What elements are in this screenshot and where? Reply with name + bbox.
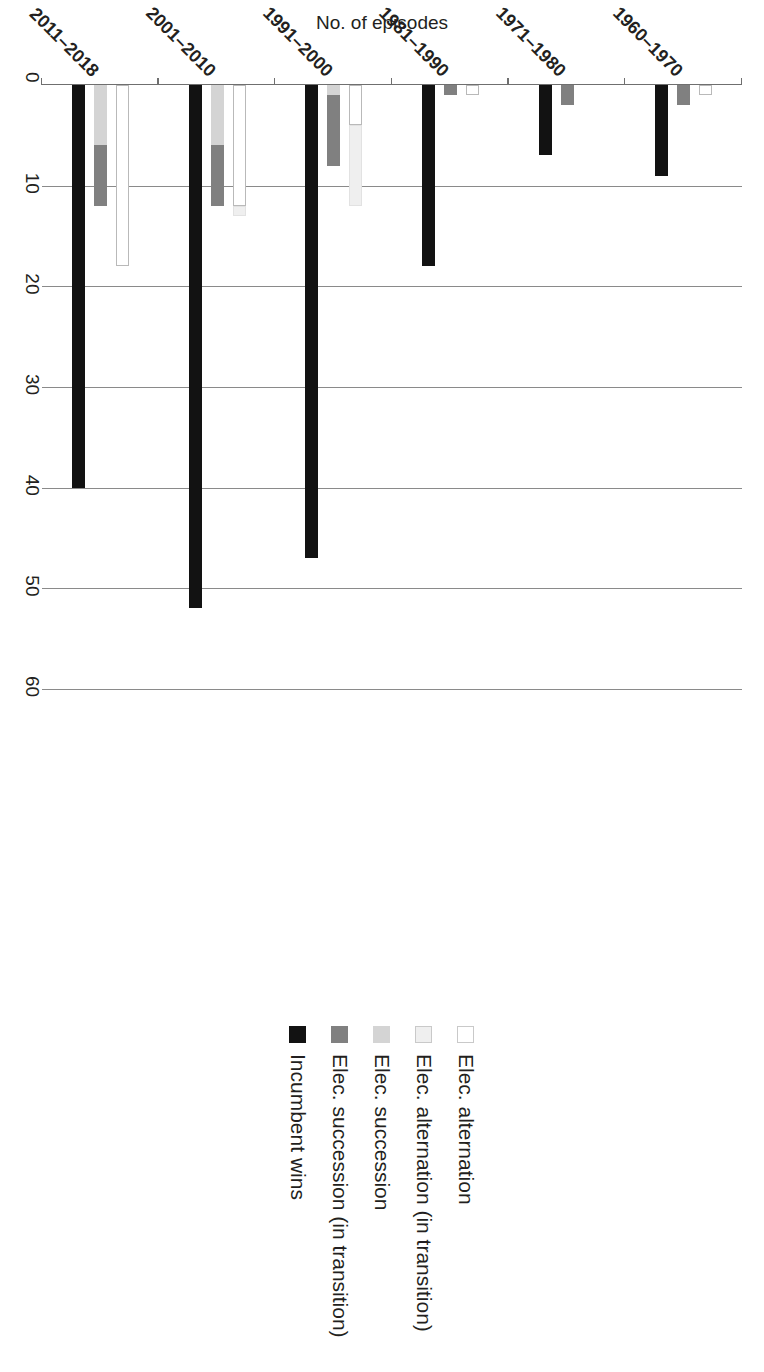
bar-segment[interactable] [305, 85, 318, 558]
bar-segment[interactable] [466, 85, 479, 95]
white-square-swatch [458, 1026, 475, 1043]
light-gray-square-swatch [374, 1026, 391, 1043]
chart-legend: Elec. alternationElec. alternation (in t… [0, 1010, 764, 1372]
bar-group [159, 85, 276, 688]
y-axis-tick: 30 [21, 374, 43, 395]
bar-segment[interactable] [349, 85, 362, 125]
bar-segment[interactable] [116, 85, 129, 266]
legend-item-label: Elec. succession [370, 1054, 394, 1210]
bar-segment[interactable] [561, 85, 574, 105]
y-axis-tick: 60 [21, 676, 43, 697]
bar[interactable] [466, 85, 479, 95]
legend-item[interactable]: Incumbent wins [286, 1026, 310, 1372]
bar[interactable] [72, 85, 85, 488]
bar-segment[interactable] [699, 85, 712, 95]
legend-item[interactable]: Elec. alternation (in transition) [412, 1026, 436, 1372]
legend-item-label: Elec. alternation [454, 1054, 478, 1205]
category-tick [741, 78, 742, 85]
bar-segment[interactable] [72, 85, 85, 488]
bar[interactable] [699, 85, 712, 95]
y-axis-tick: 50 [21, 575, 43, 596]
bar-segment[interactable] [211, 145, 224, 205]
bar[interactable] [655, 85, 668, 176]
bar-chart-figure: No. of episodes 0102030405060 1960–19701… [0, 0, 764, 1372]
bar-segment[interactable] [94, 145, 107, 205]
bar-segment[interactable] [677, 85, 690, 105]
legend-item[interactable]: Elec. succession (in transition) [328, 1026, 352, 1372]
plot-area [42, 84, 742, 688]
bar-segment[interactable] [327, 85, 340, 95]
bar-segment[interactable] [327, 95, 340, 165]
legend-item[interactable]: Elec. alternation [454, 1026, 478, 1372]
bar[interactable] [677, 85, 690, 105]
very-light-gray-swatch [416, 1026, 433, 1043]
legend-item-label: Incumbent wins [286, 1054, 310, 1200]
bar[interactable] [422, 85, 435, 266]
bar-segment[interactable] [233, 85, 246, 206]
category-tick [157, 78, 158, 85]
bar[interactable] [349, 85, 362, 206]
bar-group [392, 85, 509, 688]
bar-group [275, 85, 392, 688]
legend-item-label: Elec. succession (in transition) [328, 1054, 352, 1338]
bar[interactable] [561, 85, 574, 105]
category-tick [391, 78, 392, 85]
bar-segment[interactable] [189, 85, 202, 608]
bar-segment[interactable] [422, 85, 435, 266]
bar[interactable] [211, 85, 224, 206]
bar[interactable] [539, 85, 552, 155]
bar[interactable] [233, 85, 246, 216]
bar[interactable] [94, 85, 107, 206]
bar-segment[interactable] [444, 85, 457, 95]
y-axis-tick: 10 [21, 173, 43, 194]
bar[interactable] [444, 85, 457, 95]
gridline [42, 689, 742, 690]
bar-segment[interactable] [655, 85, 668, 176]
bar-segment[interactable] [539, 85, 552, 155]
bar-segment[interactable] [349, 125, 362, 206]
legend-item-label: Elec. alternation (in transition) [412, 1054, 436, 1332]
legend-item[interactable]: Elec. succession [370, 1026, 394, 1372]
bar[interactable] [327, 85, 340, 166]
bar-group [625, 85, 742, 688]
y-axis-tick: 0 [21, 72, 43, 83]
bar[interactable] [116, 85, 129, 266]
rotated-figure-container: No. of episodes 0102030405060 1960–19701… [0, 0, 764, 1372]
category-tick [41, 78, 42, 85]
category-tick [507, 78, 508, 85]
bar-segment[interactable] [94, 85, 107, 145]
category-tick [624, 78, 625, 85]
bar-group [509, 85, 626, 688]
category-tick [274, 78, 275, 85]
medium-gray-square-swatch [332, 1026, 349, 1043]
bar[interactable] [305, 85, 318, 558]
bar-segment[interactable] [211, 85, 224, 145]
plot-area-wrapper: No. of episodes 0102030405060 1960–19701… [0, 0, 764, 1000]
y-axis-tick: 40 [21, 475, 43, 496]
y-axis-tick: 20 [21, 273, 43, 294]
bar[interactable] [189, 85, 202, 608]
bar-group [42, 85, 159, 688]
black-square-swatch [290, 1026, 307, 1043]
bar-segment[interactable] [233, 206, 246, 216]
